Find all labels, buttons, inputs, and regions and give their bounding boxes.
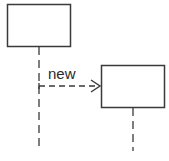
creator-object-box [8, 5, 71, 47]
sequence-diagram: new [0, 0, 169, 161]
created-object-box [102, 66, 165, 108]
new-message-label: new [48, 66, 76, 81]
diagram-svg [0, 0, 169, 161]
